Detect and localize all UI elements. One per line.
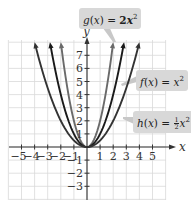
x-tick-label: 3 <box>123 150 130 163</box>
x-axis-arrow-icon <box>169 145 176 150</box>
x-tick-label: 1 <box>97 150 104 163</box>
fn-var: x <box>148 76 154 88</box>
y-tick-label: 7 <box>76 49 83 62</box>
label-h: h(x) = 12x2 <box>133 111 191 133</box>
fn-var: x <box>148 117 154 129</box>
y-tick-label: 4 <box>76 89 83 102</box>
denominator: 2 <box>174 124 178 131</box>
y-tick-label: −1 <box>67 154 83 167</box>
y-tick-label: 5 <box>76 76 83 89</box>
y-tick-label: 3 <box>76 102 83 115</box>
curve-arrow-icon <box>48 42 53 48</box>
label-f: f(x) = x2 <box>136 70 188 91</box>
coefficient: 2 <box>119 14 126 26</box>
x-tick-label: 4 <box>136 150 143 163</box>
x-tick-label: 5 <box>149 150 156 163</box>
label-g: g(x) = 2x2 <box>79 8 141 29</box>
y-tick-label: −3 <box>67 180 83 193</box>
fn-name: h <box>137 117 144 129</box>
y-tick-label: 2 <box>76 115 83 128</box>
fn-name: f <box>140 76 144 88</box>
y-axis-arrow-icon <box>85 37 90 44</box>
y-tick-label: −2 <box>67 167 83 180</box>
y-tick-label: 6 <box>76 62 83 75</box>
fraction: 12 <box>174 117 178 131</box>
fn-var: x <box>94 14 100 26</box>
x-axis-label: x <box>179 140 186 154</box>
curve-arrow-icon <box>110 42 115 48</box>
curve-arrow-icon <box>59 42 64 48</box>
graph: −5−4−3−2−112345−3−2−11234567xy <box>0 0 191 208</box>
y-tick-label: 1 <box>76 128 83 141</box>
exponent: 2 <box>133 13 137 21</box>
curve-arrow-icon <box>120 42 125 48</box>
fn-name: g <box>83 14 90 26</box>
exponent: 2 <box>179 75 183 83</box>
exponent: 2 <box>185 116 189 124</box>
x-tick-label: 2 <box>110 150 117 163</box>
